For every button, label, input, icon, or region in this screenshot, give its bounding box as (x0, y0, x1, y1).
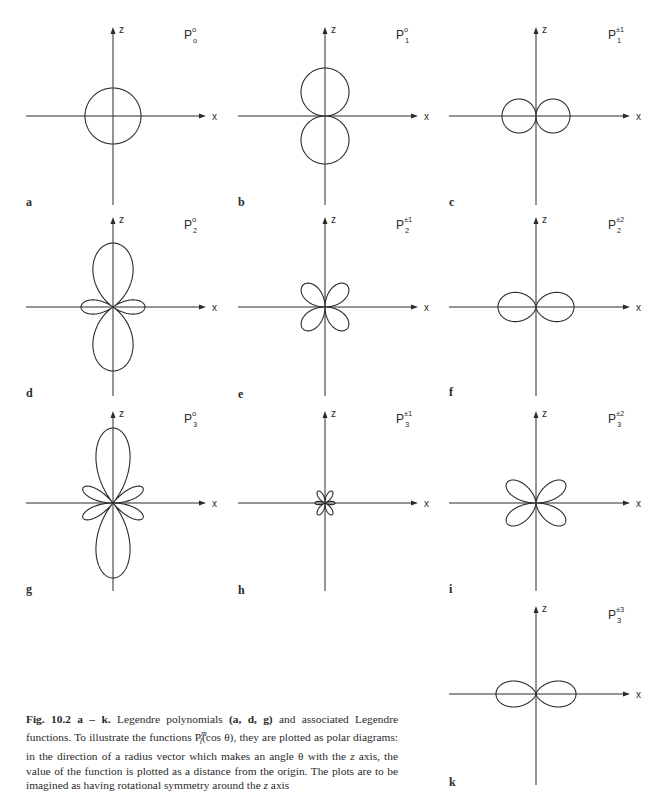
panel-label: c (449, 195, 455, 209)
panel-label: h (238, 583, 245, 597)
x-axis-label: x (424, 498, 429, 509)
function-symbol-m: ±2 (616, 215, 624, 224)
function-symbol-m: o (192, 25, 196, 34)
panel-e: zxP±12e (238, 214, 429, 401)
x-axis-label: x (424, 111, 429, 122)
z-arrow-icon (111, 217, 116, 224)
x-arrow-icon (411, 501, 418, 506)
panel-k: zxP±33k (449, 603, 641, 789)
z-axis-label: z (542, 24, 547, 35)
function-symbol: P (396, 218, 404, 232)
panel-label: d (26, 386, 33, 400)
function-symbol: P (608, 608, 616, 622)
z-axis-label: z (331, 24, 336, 35)
panel-i: zxP±23i (449, 408, 641, 596)
z-arrow-icon (111, 411, 116, 418)
panel-a: zxPooa (26, 24, 217, 209)
function-symbol-l: 2 (405, 226, 409, 235)
function-symbol-l: 1 (617, 36, 621, 45)
function-symbol-l: 2 (193, 226, 197, 235)
function-symbol: P (184, 28, 192, 42)
x-axis-label: x (212, 111, 217, 122)
function-symbol-l: 2 (617, 226, 621, 235)
figure-caption: Fig. 10.2 a – k. Legendre polynomials (a… (26, 712, 398, 793)
function-symbol: P (184, 218, 192, 232)
function-symbol-l: 1 (405, 36, 409, 45)
caption-bold-refs: (a, d, g) (229, 713, 273, 725)
z-arrow-icon (323, 27, 328, 34)
panel-label: g (26, 582, 32, 596)
z-arrow-icon (534, 411, 539, 418)
function-symbol-m: o (404, 25, 408, 34)
x-arrow-icon (623, 692, 630, 697)
caption-text-1: Legendre polynomials (111, 713, 229, 725)
caption-lead: Fig. 10.2 a – k. (26, 713, 111, 725)
function-symbol-l: o (193, 36, 197, 45)
function-symbol-m: ±3 (616, 605, 624, 614)
function-symbol-l: 3 (617, 616, 621, 625)
x-axis-label: x (424, 302, 429, 313)
z-arrow-icon (323, 411, 328, 418)
x-axis-label: x (636, 111, 641, 122)
panel-f: zxP±22f (449, 214, 641, 399)
function-symbol-l: 3 (405, 420, 409, 429)
panel-label: f (449, 385, 454, 399)
x-axis-label: x (212, 302, 217, 313)
function-symbol: P (608, 218, 616, 232)
function-symbol-m: ±1 (616, 25, 624, 34)
function-symbol-m: ±1 (404, 215, 412, 224)
function-symbol-l: 3 (617, 420, 621, 429)
z-arrow-icon (111, 27, 116, 34)
z-arrow-icon (323, 217, 328, 224)
panel-label: i (449, 582, 453, 596)
legendre-figure: zxPooazxPo1bzxP±11czxPo2dzxP±12ezxP±22fz… (0, 0, 672, 798)
x-axis-label: x (636, 498, 641, 509)
z-arrow-icon (534, 217, 539, 224)
function-symbol-m: ±2 (616, 409, 624, 418)
function-symbol: P (396, 28, 404, 42)
function-symbol-m: ±1 (404, 409, 412, 418)
function-symbol: P (184, 412, 192, 426)
function-symbol: P (608, 412, 616, 426)
panel-label: a (26, 195, 32, 209)
z-arrow-icon (534, 606, 539, 613)
z-axis-label: z (331, 214, 336, 225)
x-arrow-icon (411, 114, 418, 119)
panel-label: b (238, 195, 245, 209)
panel-g: zxPo3g (26, 408, 217, 596)
function-symbol-l: 3 (193, 420, 197, 429)
panel-label: k (449, 775, 456, 789)
z-arrow-icon (534, 27, 539, 34)
z-axis-label: z (542, 408, 547, 419)
z-axis-label: z (119, 24, 124, 35)
panel-d: zxPo2d (26, 214, 217, 400)
panel-c: zxP±11c (449, 24, 641, 209)
x-axis-label: x (636, 689, 641, 700)
x-arrow-icon (623, 501, 630, 506)
x-axis-label: x (212, 498, 217, 509)
z-axis-label: z (331, 408, 336, 419)
z-axis-label: z (542, 214, 547, 225)
function-symbol: P (608, 28, 616, 42)
panel-b: zxPo1b (238, 24, 429, 209)
panel-h: zxP±13h (238, 408, 429, 597)
x-arrow-icon (623, 114, 630, 119)
z-axis-label: z (542, 603, 547, 614)
x-arrow-icon (199, 501, 206, 506)
x-arrow-icon (199, 114, 206, 119)
panel-label: e (238, 387, 244, 401)
function-symbol-m: o (192, 215, 196, 224)
function-symbol-m: o (192, 409, 196, 418)
x-arrow-icon (199, 305, 206, 310)
x-arrow-icon (623, 305, 630, 310)
z-axis-label: z (119, 408, 124, 419)
x-axis-label: x (636, 302, 641, 313)
caption-text-5: axis (268, 779, 289, 791)
x-arrow-icon (411, 305, 418, 310)
function-symbol: P (396, 412, 404, 426)
z-axis-label: z (119, 214, 124, 225)
